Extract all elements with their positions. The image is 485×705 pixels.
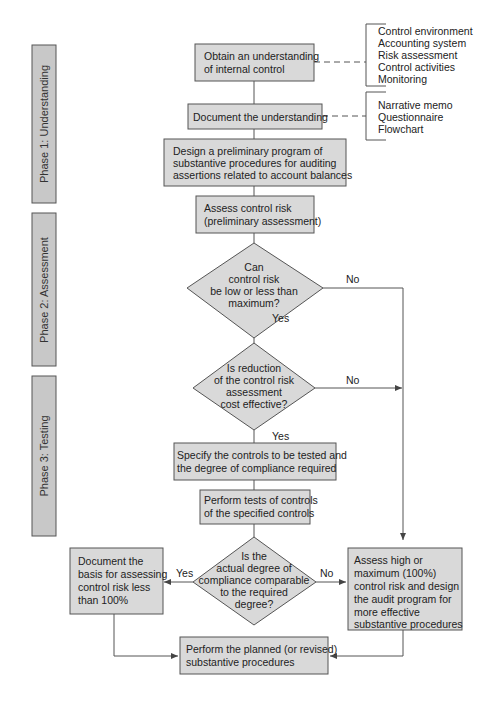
node-text: Assess high or bbox=[354, 554, 423, 566]
node-text: Obtain an understanding bbox=[204, 50, 319, 62]
node-assess-high-risk: Assess high or maximum (100%) control ri… bbox=[348, 548, 463, 630]
node-text: assessment bbox=[226, 386, 282, 398]
node-text: actual degree of bbox=[216, 562, 291, 574]
node-text: to the required bbox=[220, 586, 288, 598]
annotation-item: Monitoring bbox=[378, 73, 427, 85]
node-text: cost effective? bbox=[221, 398, 288, 410]
phase-label: Phase 1: Understanding bbox=[38, 65, 50, 183]
node-text: compliance comparable bbox=[199, 574, 310, 586]
node-text: than 100% bbox=[78, 594, 128, 606]
node-text: Document the understanding bbox=[193, 111, 328, 123]
annotation-item: Control environment bbox=[378, 25, 473, 37]
node-text: Specify the controls to be tested and bbox=[177, 449, 347, 461]
decision-cost-effective: Is reduction of the control risk assessm… bbox=[193, 343, 315, 430]
edge-label-no: No bbox=[346, 273, 360, 285]
node-text: of internal control bbox=[204, 63, 285, 75]
annotation-item: Accounting system bbox=[378, 37, 466, 49]
annotation-documentation-list: Narrative memo Questionnaire Flowchart bbox=[378, 99, 453, 135]
node-text: the audit program for bbox=[354, 593, 452, 605]
node-text: control risk less bbox=[78, 581, 150, 593]
node-text: (preliminary assessment) bbox=[204, 215, 321, 227]
node-text: control risk bbox=[229, 273, 281, 285]
decision-control-risk-low: Can control risk be low or less than max… bbox=[187, 243, 323, 338]
node-specify-controls: Specify the controls to be tested and th… bbox=[174, 443, 347, 480]
annotation-item: Questionnaire bbox=[378, 111, 444, 123]
node-text: substantive procedures for auditing bbox=[173, 157, 337, 169]
node-text: substantive procedures bbox=[186, 656, 295, 668]
node-text: Design a preliminary program of bbox=[173, 145, 322, 157]
node-text: degree? bbox=[235, 598, 274, 610]
node-assess-control-risk: Assess control risk (preliminary assessm… bbox=[196, 196, 321, 233]
node-text: be low or less than bbox=[210, 285, 298, 297]
phase-bar-understanding: Phase 1: Understanding bbox=[32, 45, 56, 203]
decision-compliance-comparable: Is the actual degree of compliance compa… bbox=[193, 537, 316, 625]
annotation-item: Flowchart bbox=[378, 123, 424, 135]
edge-label-yes: Yes bbox=[176, 567, 193, 579]
phase-label: Phase 3: Testing bbox=[38, 415, 50, 496]
annotation-item: Narrative memo bbox=[378, 99, 453, 111]
edge-label-no: No bbox=[320, 567, 334, 579]
node-perform-tests: Perform tests of controls of the specifi… bbox=[200, 490, 318, 524]
annotation-item: Control activities bbox=[378, 61, 455, 73]
annotation-components-list: Control environment Accounting system Ri… bbox=[378, 25, 473, 85]
node-obtain-understanding: Obtain an understanding of internal cont… bbox=[195, 44, 319, 81]
audit-flowchart: Phase 1: Understanding Phase 2: Assessme… bbox=[0, 0, 485, 705]
node-text: basis for assessing bbox=[78, 568, 167, 580]
node-text: control risk and design bbox=[354, 580, 459, 592]
node-document-understanding: Document the understanding bbox=[188, 104, 328, 129]
node-text: Document the bbox=[78, 555, 144, 567]
node-text: assertions related to account balances bbox=[173, 169, 352, 181]
node-text: Perform the planned (or revised) bbox=[186, 643, 337, 655]
phase-bar-assessment: Phase 2: Assessment bbox=[32, 213, 56, 366]
annotation-item: Risk assessment bbox=[378, 49, 457, 61]
node-document-basis: Document the basis for assessing control… bbox=[70, 548, 167, 614]
phase-label: Phase 2: Assessment bbox=[38, 237, 50, 343]
node-text: Assess control risk bbox=[204, 202, 292, 214]
node-text: substantive procedures bbox=[354, 618, 463, 630]
node-text: Can bbox=[244, 261, 263, 273]
node-text: Is the bbox=[241, 550, 267, 562]
node-text: maximum? bbox=[228, 297, 280, 309]
node-design-preliminary-program: Design a preliminary program of substant… bbox=[164, 139, 352, 186]
node-text: Is reduction bbox=[227, 362, 281, 374]
edge-label-yes: Yes bbox=[272, 312, 289, 324]
node-text: of the specified controls bbox=[204, 507, 314, 519]
node-text: the degree of compliance required bbox=[177, 462, 337, 474]
node-perform-planned: Perform the planned (or revised) substan… bbox=[180, 637, 337, 674]
phase-bar-testing: Phase 3: Testing bbox=[32, 376, 56, 536]
node-text: Perform tests of controls bbox=[204, 494, 318, 506]
edge-label-no: No bbox=[346, 374, 360, 386]
node-text: maximum (100%) bbox=[354, 567, 436, 579]
node-text: more effective bbox=[354, 606, 420, 618]
node-text: of the control risk bbox=[214, 374, 295, 386]
edge-label-yes: Yes bbox=[272, 430, 289, 442]
